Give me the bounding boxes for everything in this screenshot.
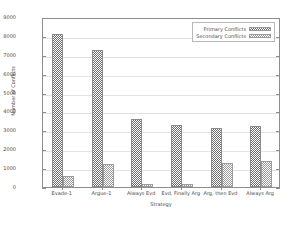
legend-entry-secondary: Secondary Conflicts — [196, 32, 271, 39]
y-tick-mark — [276, 18, 280, 19]
legend-swatch-secondary — [249, 34, 271, 38]
y-tick-mark — [276, 56, 280, 57]
gridline — [43, 151, 279, 152]
bar-primary — [92, 50, 103, 187]
y-tick-mark — [276, 75, 280, 76]
bar-primary — [131, 119, 142, 187]
bar-primary — [211, 128, 222, 188]
y-tick-mark — [276, 37, 280, 38]
x-tick-label: Always Arg — [240, 190, 280, 196]
bar-secondary — [182, 184, 193, 187]
bar-secondary — [261, 161, 272, 187]
y-tick-mark — [276, 169, 280, 170]
gridline — [43, 76, 279, 77]
bar-primary — [52, 34, 63, 187]
y-tick-label: 2000 — [0, 147, 16, 152]
y-tick-label: 8000 — [0, 34, 16, 39]
x-tick-mark — [62, 187, 63, 190]
y-tick-label: 4000 — [0, 109, 16, 114]
x-tick-mark — [141, 187, 142, 190]
x-tick-label: Evade-1 — [42, 190, 82, 196]
legend-label-secondary: Secondary Conflicts — [196, 33, 246, 39]
bar-secondary — [63, 176, 74, 187]
y-tick-mark — [42, 150, 46, 151]
y-tick-label: 3000 — [0, 128, 16, 133]
bar-primary — [171, 125, 182, 187]
legend-swatch-primary — [249, 27, 271, 31]
y-tick-mark — [42, 18, 46, 19]
y-tick-label: 1000 — [0, 166, 16, 171]
gridline — [43, 170, 279, 171]
legend-label-primary: Primary Conflicts — [204, 26, 246, 32]
y-tick-label: 5000 — [0, 91, 16, 96]
y-tick-mark — [42, 188, 46, 189]
gridline — [43, 57, 279, 58]
y-tick-mark — [276, 94, 280, 95]
y-tick-label: 7000 — [0, 53, 16, 58]
bar-secondary — [103, 164, 114, 187]
y-tick-mark — [276, 150, 280, 151]
y-tick-mark — [276, 188, 280, 189]
bar-chart: Number of Conflicts Strategy Primary Con… — [0, 0, 298, 225]
y-tick-label: 9000 — [0, 15, 16, 20]
y-tick-mark — [42, 169, 46, 170]
gridline — [43, 113, 279, 114]
x-tick-mark — [260, 187, 261, 190]
gridline — [43, 132, 279, 133]
x-tick-mark — [181, 187, 182, 190]
y-tick-mark — [42, 94, 46, 95]
gridline — [43, 95, 279, 96]
x-tick-label: Always Evd — [121, 190, 161, 196]
y-tick-mark — [42, 37, 46, 38]
x-tick-label: Argue-1 — [82, 190, 122, 196]
y-tick-mark — [42, 75, 46, 76]
y-tick-mark — [276, 112, 280, 113]
plot-area: Primary Conflicts Secondary Conflicts — [42, 18, 280, 188]
y-tick-mark — [42, 56, 46, 57]
y-tick-label: 6000 — [0, 72, 16, 77]
x-tick-label: Evd, Finally Arg — [161, 190, 201, 196]
x-tick-label: Arg, then Evd — [201, 190, 241, 196]
bar-primary — [250, 126, 261, 187]
bar-secondary — [222, 163, 233, 187]
x-tick-mark — [102, 187, 103, 190]
x-axis-label: Strategy — [42, 201, 280, 207]
bar-secondary — [142, 184, 153, 187]
y-tick-label: 0 — [0, 185, 16, 190]
y-tick-mark — [276, 131, 280, 132]
y-tick-mark — [42, 131, 46, 132]
x-tick-mark — [221, 187, 222, 190]
chart-legend: Primary Conflicts Secondary Conflicts — [192, 22, 275, 42]
legend-entry-primary: Primary Conflicts — [196, 25, 271, 32]
y-tick-mark — [42, 112, 46, 113]
